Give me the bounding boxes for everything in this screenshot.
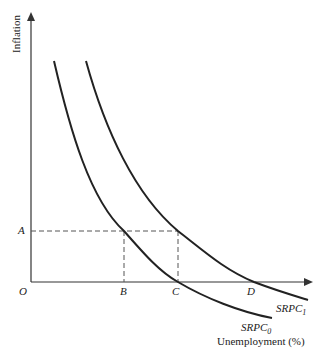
point-C-label: C xyxy=(172,285,179,297)
srpc0-name: SRPC xyxy=(241,321,267,333)
srpc1-curve xyxy=(86,61,308,300)
x-axis-label: Unemployment (%) xyxy=(217,335,305,347)
y-axis-label: Inflation xyxy=(10,4,22,64)
y-axis-arrow-icon xyxy=(27,12,35,21)
srpc0-curve xyxy=(54,61,272,318)
origin-label: O xyxy=(19,285,27,297)
point-D-label: D xyxy=(247,285,255,297)
srpc1-name: SRPC xyxy=(276,302,302,314)
x-axis-arrow-icon xyxy=(304,278,313,286)
phillips-curve-diagram xyxy=(0,0,321,358)
point-A-label: A xyxy=(18,224,25,236)
srpc1-subscript: 1 xyxy=(302,308,306,317)
y-axis xyxy=(27,12,35,282)
dashed-guides xyxy=(31,231,178,282)
srpc0-label: SRPC0 xyxy=(241,321,271,336)
srpc1-label: SRPC1 xyxy=(276,302,306,317)
point-B-label: B xyxy=(120,285,127,297)
